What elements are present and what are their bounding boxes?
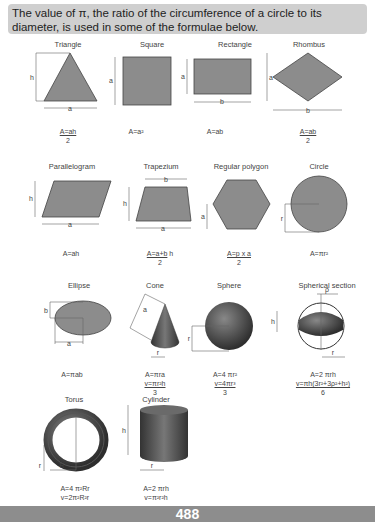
formula-torus: A=4 π²Rrv=2π²R²r <box>30 484 120 502</box>
row4-figures: R r h r <box>0 0 375 528</box>
svg-text:h: h <box>122 427 126 434</box>
svg-text:r: r <box>39 462 42 469</box>
svg-text:r: r <box>151 462 154 469</box>
formula-cylinder: A=2 πrhv=π²r²h <box>111 484 201 502</box>
page-number: 488 <box>0 506 375 522</box>
svg-text:R: R <box>59 462 64 469</box>
